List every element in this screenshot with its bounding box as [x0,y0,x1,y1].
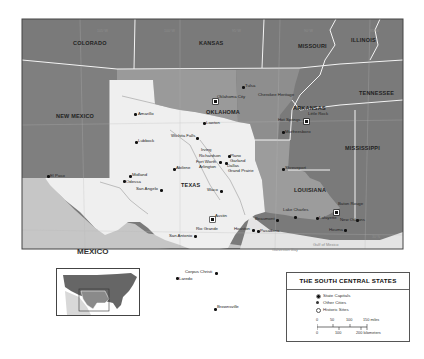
scale-mi-50: 50 [330,318,334,322]
city-label-brownsville: Brownsville [217,305,239,309]
city-symbol-icon [316,301,319,304]
city-label-lafayette: Lafayette [319,216,337,220]
city-label-lake-charles: Lake Charles [283,208,308,212]
city-label-oklahoma-city: Oklahoma City [217,95,245,99]
legend-label-historic-sites: Historic Sites [323,307,349,312]
historic-label-cherokee-heritage: Cherokee Heritage [258,93,294,97]
city-label-san-antonio: San Antonio [169,234,192,238]
state-label-illinois: ILLINOIS [351,38,376,44]
city-label-houma: Houma [329,228,343,232]
state-label-oklahoma: OKLAHOMA [206,110,240,116]
scale-mi-150: 150 miles [363,318,379,322]
scale-km-0: 0 [316,331,318,335]
country-label-mexico: MEXICO [77,248,109,256]
state-label-mississippi: MISSISSIPPI [345,146,380,152]
grid-label-25n: 30°N [372,236,380,240]
city-label-el-paso: El Paso [50,174,65,178]
city-label-midland: Midland [132,173,147,177]
city-label-new-orleans: New Orleans [340,218,365,222]
city-label-baton-rouge: Baton Rouge [338,202,363,206]
state-capital-symbol-icon [316,294,321,299]
historic-site-symbol-icon [316,308,321,313]
city-label-grand-prairie: Grand Prairie [228,169,254,173]
city-marker-beaumont [276,219,279,222]
city-label-laredo: Laredo [179,277,192,281]
scale-mi-0: 0 [316,318,318,322]
grid-label-105w: 105°W [97,30,108,34]
grid-label-100w: 100°W [164,30,175,34]
city-marker-houston [252,229,255,232]
city-label-lawton: Lawton [206,121,220,125]
grid-label-95w: 95°W [232,30,241,34]
city-label-richardson: Richardson [199,154,221,158]
capital-marker-little-rock [304,119,309,124]
city-label-shreveport: Shreveport [285,166,306,170]
label-gulf-of-mexico: Gulf of Mexico [313,243,339,247]
city-marker-san-angelo [160,189,163,192]
city-label-irving: Irving [201,148,212,152]
state-label-louisiana: LOUISIANA [294,188,326,194]
city-marker-wichita-falls [196,137,199,140]
label-galveston-bay: Galveston Bay [272,248,298,252]
city-marker-corpus-christi [215,272,218,275]
city-label-houston: Houston [234,227,250,231]
us-locator-graphic [57,269,140,316]
grid-label-90w: 90°W [304,30,313,34]
city-label-corpus-christi: Corpus Christi [185,270,212,274]
city-marker-fort-worth [219,161,222,164]
grid-label-85w: 85°W [370,30,379,34]
city-label-abilene: Abilene [176,166,190,170]
city-label-austin: Austin [215,214,227,218]
city-label-pasadena: Pasadena [260,229,279,233]
city-marker-waco [220,190,223,193]
city-label-wichita-falls: Wichita Falls [171,134,195,138]
legend-item-historic-sites: Historic Sites [323,307,349,312]
scale-mi-100: 100 [346,318,352,322]
state-label-colorado: COLORADO [73,41,107,47]
capital-marker-oklahoma-city [213,99,218,104]
legend-label-state-capitals: State Capitals [323,293,350,298]
legend-divider [287,289,409,290]
legend-item-other-cities: Other Cities [323,300,346,305]
city-marker-houma [344,229,347,232]
map-legend: THE SOUTH CENTRAL STATES State Capitals … [286,272,410,342]
city-label-tulsa: Tulsa [245,84,255,88]
scale-km-100: 100 [335,331,341,335]
city-marker-san-antonio [194,235,197,238]
city-label-beaumont: Beaumont [255,217,275,221]
city-label-san-angelo: San Angelo [136,187,158,191]
city-label-little-rock: Little Rock [308,112,328,116]
legend-item-state-capitals: State Capitals [323,293,350,298]
state-label-missouri: MISSOURI [298,44,327,50]
state-label-new-mexico: NEW MEXICO [56,114,94,120]
south-central-states-map: COLORADO KANSAS MISSOURI ILLINOIS TENNES… [0,0,424,359]
legend-title: THE SOUTH CENTRAL STATES [287,277,409,284]
historic-label-rio-grande: Rio Grande [196,227,218,231]
inset-locator-map [56,268,140,316]
state-label-texas: TEXAS [181,183,200,189]
city-label-arlington: Arlington [199,165,216,169]
state-label-kansas: KANSAS [199,41,223,47]
legend-label-other-cities: Other Cities [323,300,346,305]
scale-bar [317,323,377,331]
city-label-amarillo: Amarillo [138,112,154,116]
city-label-lubbock: Lubbock [138,139,154,143]
city-label-murfreesboro: Murfreesboro [285,130,311,134]
city-marker-amarillo [134,113,137,116]
city-label-odessa: Odessa [126,180,141,184]
city-label-waco: Waco [207,188,218,192]
historic-label-hot-springs: Hot Springs [278,118,300,122]
scale-km-200: 200 kilometers [356,331,381,335]
city-marker-lake-charles [294,216,297,219]
state-label-tennessee: TENNESSEE [359,91,394,97]
